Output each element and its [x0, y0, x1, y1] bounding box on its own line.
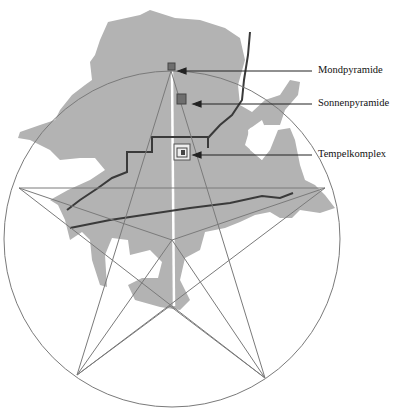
label-tempelkomplex: Tempelkomplex — [318, 148, 386, 159]
mondpyramide-marker — [168, 63, 175, 70]
tempelkomplex-marker — [174, 144, 190, 160]
label-mondpyramide: Mondpyramide — [318, 64, 383, 75]
label-sonnenpyramide: Sonnenpyramide — [318, 97, 389, 108]
sonnenpyramide-marker — [177, 94, 186, 104]
diagram-canvas — [0, 0, 396, 415]
